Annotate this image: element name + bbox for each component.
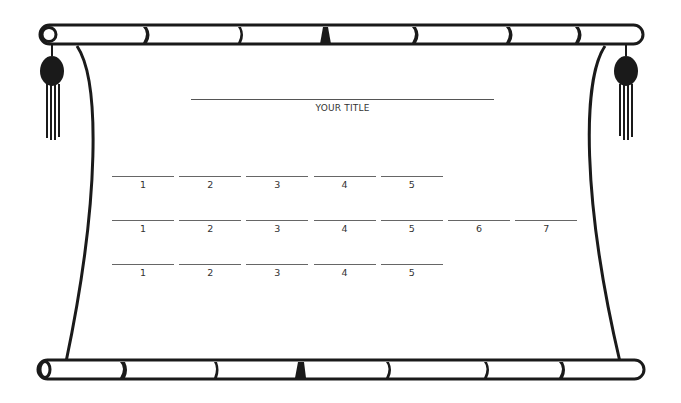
bottom-rod [38,360,644,379]
blank-line [112,264,174,265]
blank-number: 4 [314,179,376,190]
blank-number: 2 [179,223,241,234]
blank-field[interactable]: 4 [314,176,376,190]
blank-field[interactable]: 5 [381,176,443,190]
blank-number: 3 [246,179,308,190]
blank-number: 7 [515,223,577,234]
blank-field[interactable]: 2 [179,220,241,234]
blank-number: 1 [112,223,174,234]
blank-field[interactable]: 5 [381,220,443,234]
blank-line [314,264,376,265]
blank-number: 5 [381,223,443,234]
scroll-right-edge [589,46,620,362]
blank-line [381,176,443,177]
blank-number: 2 [179,179,241,190]
blank-number: 5 [381,179,443,190]
blank-number: 2 [179,267,241,278]
blank-field[interactable]: 6 [448,220,510,234]
blank-number: 1 [112,267,174,278]
scroll-left-edge [66,46,93,362]
blank-number: 5 [381,267,443,278]
right-tassel-icon [614,44,638,140]
blank-field[interactable]: 2 [179,176,241,190]
blank-number: 3 [246,223,308,234]
blank-field[interactable]: 1 [112,176,174,190]
blank-line [179,220,241,221]
blank-line [314,220,376,221]
blank-line [381,220,443,221]
blank-number: 6 [448,223,510,234]
scroll-illustration [0,0,681,403]
blank-line [179,176,241,177]
blank-field[interactable]: 2 [179,264,241,278]
blank-field[interactable]: 3 [246,220,308,234]
blank-number: 4 [314,223,376,234]
title-underline [191,99,494,100]
blank-line [112,176,174,177]
blank-field[interactable]: 5 [381,264,443,278]
blank-field[interactable]: 7 [515,220,577,234]
blank-line [314,176,376,177]
blank-field[interactable]: 4 [314,220,376,234]
blank-line [448,220,510,221]
blank-line [515,220,577,221]
blank-line [112,220,174,221]
blank-number: 4 [314,267,376,278]
blank-field[interactable]: 1 [112,264,174,278]
blank-line [246,220,308,221]
blank-line [246,176,308,177]
blank-field[interactable]: 4 [314,264,376,278]
blank-field[interactable]: 3 [246,176,308,190]
blank-number: 1 [112,179,174,190]
blank-field[interactable]: 1 [112,220,174,234]
top-rod [40,25,643,44]
left-tassel-icon [40,44,64,140]
blank-line [381,264,443,265]
blank-field[interactable]: 3 [246,264,308,278]
blank-number: 3 [246,267,308,278]
title-label: YOUR TITLE [191,103,494,113]
blank-line [179,264,241,265]
blank-line [246,264,308,265]
